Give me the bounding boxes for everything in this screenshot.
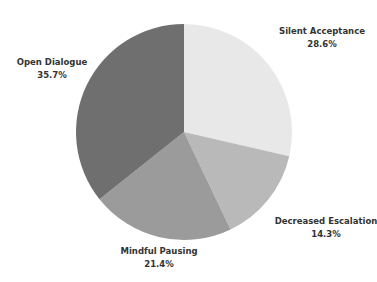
pie-slices — [76, 24, 292, 240]
label-silent-acceptance: Silent Acceptance 28.6% — [279, 25, 365, 51]
label-value: 21.4% — [120, 258, 197, 271]
label-name: Mindful Pausing — [120, 245, 197, 258]
label-name: Silent Acceptance — [279, 25, 365, 38]
label-mindful-pausing: Mindful Pausing 21.4% — [120, 245, 197, 271]
label-value: 35.7% — [17, 69, 87, 82]
label-name: Open Dialogue — [17, 56, 87, 69]
label-decreased-escalation: Decreased Escalation 14.3% — [275, 215, 377, 241]
label-open-dialogue: Open Dialogue 35.7% — [17, 56, 87, 82]
label-value: 28.6% — [279, 38, 365, 51]
label-value: 14.3% — [275, 228, 377, 241]
label-name: Decreased Escalation — [275, 215, 377, 228]
